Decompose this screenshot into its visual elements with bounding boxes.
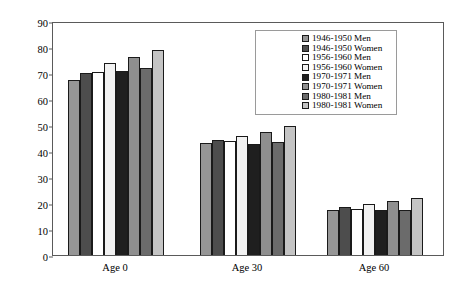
bar (224, 141, 236, 255)
y-tick-mark (49, 257, 53, 258)
y-tick-label: 30 (7, 174, 53, 185)
legend-swatch (302, 74, 309, 81)
bar (387, 201, 399, 255)
bar (152, 50, 164, 255)
x-tick-label: Age 60 (359, 262, 390, 273)
bar (272, 142, 284, 255)
y-tick-label: 60 (7, 96, 53, 107)
bar (327, 210, 339, 256)
bar (116, 71, 128, 255)
bar (104, 63, 116, 255)
legend-label: 1980-1981 Women (312, 101, 382, 111)
chart-legend: 1946-1950 Men1946-1950 Women1956-1960 Me… (255, 30, 397, 115)
bar (351, 209, 363, 255)
bar (399, 210, 411, 256)
legend-swatch (302, 54, 309, 61)
bar (92, 72, 104, 255)
bar (260, 132, 272, 256)
bar-chart: Further life expectancy in years 0102030… (0, 0, 455, 288)
legend-swatch (302, 35, 309, 42)
bar (68, 80, 80, 256)
bar (200, 143, 212, 255)
y-tick-label: 40 (7, 148, 53, 159)
bar (339, 207, 351, 255)
legend-swatch (302, 102, 309, 109)
x-tick-label: Age 30 (232, 262, 263, 273)
x-tick-label: Age 0 (102, 262, 127, 273)
bar (375, 210, 387, 255)
y-tick-label: 50 (7, 122, 53, 133)
y-tick-label: 0 (7, 252, 53, 263)
bar (363, 204, 375, 255)
legend-entries: 1946-1950 Men1946-1950 Women1956-1960 Me… (302, 34, 392, 111)
bar (411, 198, 423, 255)
bar (140, 68, 152, 255)
bar (248, 144, 260, 255)
bar (236, 136, 248, 255)
bar (212, 140, 224, 255)
y-tick-label: 70 (7, 70, 53, 81)
bar (80, 73, 92, 255)
bar-group (68, 23, 164, 255)
legend-swatch (302, 83, 309, 90)
legend-swatch (302, 64, 309, 71)
legend-entry: 1980-1981 Women (302, 101, 392, 111)
y-tick-label: 80 (7, 44, 53, 55)
y-tick-label: 20 (7, 200, 53, 211)
bar (128, 57, 140, 255)
bar (284, 126, 296, 255)
y-tick-label: 10 (7, 226, 53, 237)
y-tick-label: 90 (7, 18, 53, 29)
legend-swatch (302, 45, 309, 52)
legend-swatch (302, 93, 309, 100)
